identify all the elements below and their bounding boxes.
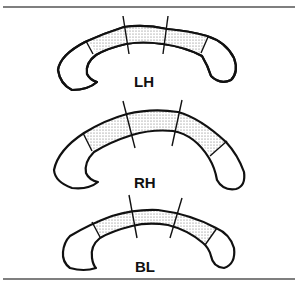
label-lh: LH [134, 73, 154, 90]
figure-canvas: LH RH BL [0, 0, 299, 285]
label-rh: RH [134, 174, 156, 191]
label-bl: BL [135, 258, 155, 275]
